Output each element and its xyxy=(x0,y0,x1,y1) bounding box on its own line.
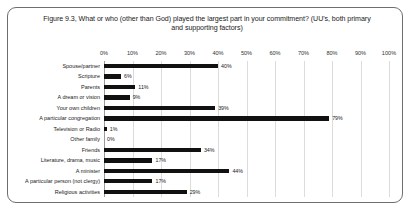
bar-row: A minister44% xyxy=(104,166,389,176)
bar xyxy=(104,127,107,131)
bar xyxy=(104,64,218,68)
bar-row: A particular person (not clergy)17% xyxy=(104,176,389,186)
bar-row: Television or Radio1% xyxy=(104,124,389,134)
bar-value-label: 0% xyxy=(107,134,115,144)
bar-value-label: 1% xyxy=(110,124,118,134)
x-tick-label: 20% xyxy=(155,50,166,56)
bar xyxy=(104,179,152,183)
category-label: Scripture xyxy=(78,71,100,81)
x-tick-label: 0% xyxy=(100,50,108,56)
bar xyxy=(104,74,121,78)
bar-value-label: 9% xyxy=(133,92,141,102)
category-label: Spouse/partner xyxy=(62,61,100,71)
bar-row: Spouse/partner40% xyxy=(104,61,389,71)
gridline-100% xyxy=(389,61,390,197)
category-label: Television or Radio xyxy=(54,124,100,134)
x-tick-label: 100% xyxy=(382,50,396,56)
bar xyxy=(104,85,135,89)
category-label: A minister xyxy=(76,166,100,176)
category-label: Your own children xyxy=(56,103,100,113)
category-label: Parents xyxy=(81,82,100,92)
bar-value-label: 39% xyxy=(218,103,229,113)
bar-value-label: 17% xyxy=(155,155,166,165)
x-tick-label: 50% xyxy=(241,50,252,56)
bar-value-label: 44% xyxy=(232,166,243,176)
bar-value-label: 79% xyxy=(332,113,343,123)
category-label: Literature, drama, music xyxy=(41,155,100,165)
bar-value-label: 29% xyxy=(190,187,201,197)
bar xyxy=(104,158,152,162)
bar xyxy=(104,116,329,120)
bar-row: Parents11% xyxy=(104,82,389,92)
bar-value-label: 34% xyxy=(204,145,215,155)
figure-frame: Figure 9.3, What or who (other than God)… xyxy=(7,7,403,203)
bar-row: Scripture6% xyxy=(104,71,389,81)
bar-row: Religious activities29% xyxy=(104,187,389,197)
x-tick-label: 60% xyxy=(269,50,280,56)
bar xyxy=(104,190,187,194)
category-label: Other family xyxy=(70,134,100,144)
x-tick-label: 40% xyxy=(212,50,223,56)
bar-row: Friends34% xyxy=(104,145,389,155)
bar-row: A dream or vision9% xyxy=(104,92,389,102)
x-tick-label: 90% xyxy=(355,50,366,56)
bar-value-label: 11% xyxy=(138,82,148,92)
category-label: A dream or vision xyxy=(58,92,101,102)
bar-value-label: 40% xyxy=(221,61,232,71)
x-tick-label: 30% xyxy=(184,50,195,56)
bar xyxy=(104,106,215,110)
bar-row: Other family0% xyxy=(104,134,389,144)
category-label: Friends xyxy=(82,145,100,155)
category-label: A particular person (not clergy) xyxy=(25,176,100,186)
bar-row: A particular congregation79% xyxy=(104,113,389,123)
category-label: Religious activities xyxy=(55,187,100,197)
x-tick-label: 80% xyxy=(326,50,337,56)
x-tick-label: 70% xyxy=(298,50,309,56)
bar-row: Your own children39% xyxy=(104,103,389,113)
bar xyxy=(104,148,201,152)
bar xyxy=(104,95,130,99)
category-label: A particular congregation xyxy=(39,113,100,123)
plot-area: Spouse/partner40%Scripture6%Parents11%A … xyxy=(104,61,389,197)
bar xyxy=(104,169,229,173)
bar-row: Literature, drama, music17% xyxy=(104,155,389,165)
bar-value-label: 17% xyxy=(155,176,166,186)
x-axis-tick-labels: 0%10%20%30%40%50%60%70%80%90%100% xyxy=(104,50,389,60)
x-tick-label: 10% xyxy=(127,50,138,56)
bar-value-label: 6% xyxy=(124,71,132,81)
chart-title: Figure 9.3, What or who (other than God)… xyxy=(42,15,372,33)
